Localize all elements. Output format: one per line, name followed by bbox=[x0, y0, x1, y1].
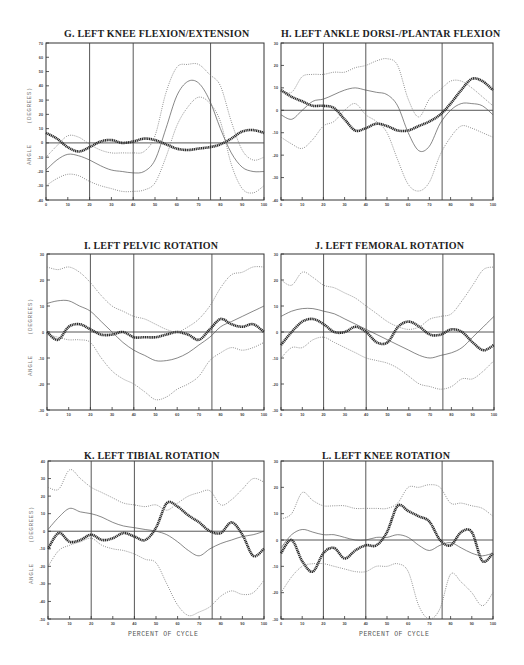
series-normal-1sd bbox=[48, 470, 264, 511]
y-tick-label: -20 bbox=[273, 383, 279, 387]
x-tick-label: 50 bbox=[154, 622, 158, 626]
chart-title-k: K. LEFT TIBIAL ROTATION bbox=[84, 450, 220, 461]
series-normal-mean bbox=[47, 300, 264, 361]
series-normal-1sd bbox=[281, 337, 494, 389]
x-tick-label: 50 bbox=[385, 203, 389, 207]
y-tick-label: 10 bbox=[40, 305, 44, 309]
x-tick-label: 10 bbox=[300, 622, 304, 626]
series-normal-mean bbox=[281, 88, 493, 152]
y-tick-label: -10 bbox=[38, 156, 44, 160]
y-tick-label: 30 bbox=[39, 99, 43, 103]
x-tick-label: 80 bbox=[449, 413, 453, 417]
series-patient bbox=[48, 502, 264, 556]
series-normal-1sd bbox=[48, 538, 264, 616]
x-tick-label: 100 bbox=[490, 622, 496, 626]
series-patient bbox=[281, 78, 493, 131]
x-tick-label: 30 bbox=[342, 203, 346, 207]
y-tick-label: 0 bbox=[41, 141, 43, 145]
x-tick-label: 20 bbox=[87, 203, 91, 207]
x-tick-label: 20 bbox=[321, 622, 325, 626]
x-tick-label: 0 bbox=[280, 203, 282, 207]
x-tick-label: 90 bbox=[240, 622, 244, 626]
series-normal-1sd bbox=[281, 59, 493, 117]
y-tick-label: 20 bbox=[41, 495, 45, 499]
y-tick-label: -10 bbox=[273, 131, 279, 135]
x-tick-label: 20 bbox=[89, 622, 93, 626]
series-patient bbox=[281, 319, 494, 350]
y-tick-label: -10 bbox=[273, 565, 279, 569]
x-tick-label: 10 bbox=[67, 413, 71, 417]
x-tick-label: 100 bbox=[261, 622, 267, 626]
x-tick-label: 30 bbox=[110, 413, 114, 417]
x-tick-label: 50 bbox=[153, 413, 157, 417]
series-patient bbox=[46, 130, 264, 152]
chart-title-h: H. LEFT ANKLE DORSI-/PLANTAR FLEXION bbox=[281, 28, 500, 39]
x-tick-label: 70 bbox=[428, 413, 432, 417]
y-tick-label: 60 bbox=[39, 56, 43, 60]
y-tick-label: -10 bbox=[40, 547, 46, 551]
series-patient bbox=[281, 505, 493, 572]
x-tick-label: 90 bbox=[240, 203, 244, 207]
x-tick-label: 40 bbox=[131, 203, 135, 207]
x-tick-label: 40 bbox=[132, 622, 136, 626]
x-tick-label: 20 bbox=[321, 413, 325, 417]
series-normal-mean bbox=[48, 508, 264, 556]
y-tick-label: -30 bbox=[273, 409, 279, 413]
series-normal-1sd bbox=[281, 104, 493, 192]
y-tick-label: -20 bbox=[273, 154, 279, 158]
x-tick-label: 70 bbox=[196, 203, 200, 207]
chart-panel-j: -30-20-1001020300102030405060708090100 bbox=[273, 253, 498, 418]
x-tick-label: 70 bbox=[197, 622, 201, 626]
chart-panel-l: -30-20-1001020300102030405060708090100 bbox=[273, 460, 497, 627]
y-tick-label: 20 bbox=[274, 486, 278, 490]
y-tick-label: -30 bbox=[273, 618, 279, 622]
x-tick-label: 90 bbox=[471, 413, 475, 417]
y-tick-label: 0 bbox=[276, 331, 278, 335]
x-tick-label: 100 bbox=[491, 413, 497, 417]
y-tick-label: -20 bbox=[39, 383, 45, 387]
x-tick-label: 90 bbox=[470, 622, 474, 626]
chart-title-g: G. LEFT KNEE FLEXION/EXTENSION bbox=[64, 28, 249, 39]
x-tick-label: 70 bbox=[197, 413, 201, 417]
plot-frame bbox=[281, 43, 493, 200]
y-axis-label: ANGLE (DEGREES) bbox=[27, 298, 34, 376]
y-tick-label: -40 bbox=[273, 199, 279, 203]
series-normal-1sd bbox=[281, 485, 493, 519]
y-tick-label: -30 bbox=[39, 409, 45, 413]
chart-panel-h: -40-30-20-100102030010203040506070809010… bbox=[273, 42, 497, 208]
series-normal-1sd bbox=[46, 64, 264, 161]
y-tick-label: 20 bbox=[40, 279, 44, 283]
x-tick-label: 90 bbox=[470, 203, 474, 207]
y-axis-label: ANGLE (DEGREES) bbox=[28, 506, 35, 584]
x-tick-label: 10 bbox=[66, 203, 70, 207]
y-tick-label: 0 bbox=[276, 109, 278, 113]
x-tick-label: 30 bbox=[109, 203, 113, 207]
x-tick-label: 80 bbox=[448, 622, 452, 626]
y-tick-label: -20 bbox=[40, 565, 46, 569]
y-axis-label: ANGLE (DEGREES) bbox=[26, 88, 33, 166]
x-tick-label: 30 bbox=[111, 622, 115, 626]
x-tick-label: 0 bbox=[46, 413, 48, 417]
y-tick-label: -30 bbox=[273, 176, 279, 180]
x-tick-label: 80 bbox=[218, 413, 222, 417]
x-tick-label: 80 bbox=[219, 622, 223, 626]
x-tick-label: 40 bbox=[364, 622, 368, 626]
series-patient bbox=[47, 319, 264, 340]
y-tick-label: -30 bbox=[40, 582, 46, 586]
x-tick-label: 60 bbox=[175, 413, 179, 417]
x-tick-label: 0 bbox=[45, 203, 47, 207]
x-tick-label: 70 bbox=[427, 622, 431, 626]
x-tick-label: 100 bbox=[490, 203, 496, 207]
y-tick-label: -20 bbox=[273, 591, 279, 595]
x-tick-label: 70 bbox=[427, 203, 431, 207]
series-normal-mean bbox=[46, 80, 264, 173]
y-tick-label: 40 bbox=[41, 460, 45, 464]
x-axis-label: PERCENT OF CYCLE bbox=[128, 631, 198, 638]
x-axis-label: PERCENT OF CYCLE bbox=[359, 631, 429, 638]
y-tick-label: 20 bbox=[274, 64, 278, 68]
y-tick-label: -40 bbox=[38, 199, 44, 203]
y-tick-label: 20 bbox=[39, 113, 43, 117]
y-tick-label: 10 bbox=[274, 86, 278, 90]
y-tick-label: 0 bbox=[276, 539, 278, 543]
x-tick-label: 10 bbox=[300, 413, 304, 417]
